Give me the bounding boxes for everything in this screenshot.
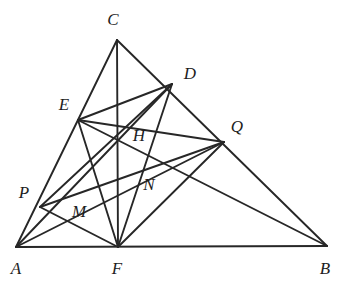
segment-PQ: [40, 142, 224, 207]
segments-group: [16, 40, 327, 247]
vertex-label-b: B: [320, 260, 330, 277]
geometry-canvas: [0, 0, 340, 284]
geometry-figure: ABCDEFHMNPQ: [0, 0, 340, 284]
side-AB: [16, 246, 327, 247]
vertex-label-f: F: [112, 260, 122, 277]
cevian-CF: [117, 40, 118, 247]
segment-AD: [16, 84, 172, 247]
segment-AQ: [16, 142, 224, 247]
vertex-label-d: D: [184, 65, 196, 82]
vertex-label-n: N: [143, 176, 154, 193]
vertex-label-c: C: [107, 11, 118, 28]
vertex-label-q: Q: [231, 118, 243, 135]
vertex-label-m: M: [72, 203, 86, 220]
vertex-label-h: H: [133, 127, 145, 144]
vertex-label-e: E: [59, 96, 69, 113]
side-AC: [16, 40, 117, 247]
cevian-FQ: [118, 142, 224, 247]
vertex-label-p: P: [19, 184, 29, 201]
vertex-label-a: A: [11, 260, 21, 277]
